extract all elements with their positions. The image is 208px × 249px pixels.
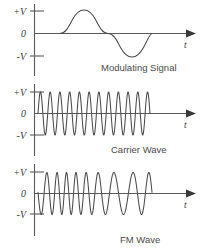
label-positive-modulating: +V (13, 6, 28, 17)
panel-fm-wave: +V 0 -V t FM Wave (13, 164, 196, 245)
label-positive-fm: +V (13, 167, 28, 178)
label-t-carrier: t (184, 120, 187, 130)
panel-modulating-signal: +V 0 -V t Modulating Signal (13, 4, 196, 76)
label-zero-fm: 0 (21, 188, 26, 199)
caption-fm-wave: FM Wave (120, 234, 160, 245)
panel-carrier-wave: +V 0 -V t Carrier Wave (13, 84, 196, 156)
label-negative-fm: -V (17, 209, 28, 220)
label-negative-carrier: -V (17, 130, 28, 141)
label-zero-modulating: 0 (21, 28, 26, 39)
label-negative-modulating: -V (17, 51, 28, 62)
x-axis-arrow-fm (186, 190, 196, 198)
label-zero-carrier: 0 (21, 108, 26, 119)
fm-modulation-figure: +V 0 -V t Modulating Signal +V 0 -V t Ca… (0, 0, 208, 249)
caption-modulating-signal: Modulating Signal (101, 62, 177, 73)
label-t-modulating: t (184, 40, 187, 50)
label-positive-carrier: +V (13, 87, 28, 98)
x-axis-arrow-modulating (186, 30, 196, 38)
caption-carrier-wave: Carrier Wave (111, 144, 167, 155)
label-t-fm: t (184, 200, 187, 210)
x-axis-arrow-carrier (186, 110, 196, 118)
